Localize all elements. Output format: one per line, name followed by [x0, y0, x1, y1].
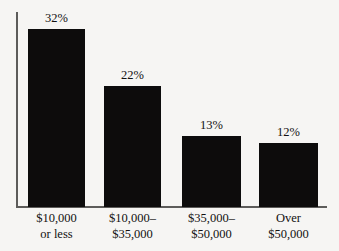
category-label-4-line1: Over: [276, 211, 301, 225]
category-label-3-line1: $35,000–: [188, 211, 235, 225]
category-label-1-line1: $10,000: [36, 211, 77, 225]
bar-2: [104, 86, 161, 207]
bar-value-4: 12%: [259, 125, 318, 140]
category-label-2-line2: $35,000: [92, 227, 173, 243]
bar-value-1: 32%: [28, 11, 85, 26]
bar-3: [182, 136, 241, 207]
category-label-4-line2: $50,000: [248, 227, 329, 243]
category-label-4: Over $50,000: [248, 211, 329, 242]
category-label-1-line2: or less: [16, 227, 97, 243]
bar-value-2: 22%: [104, 68, 161, 83]
category-label-3: $35,000– $50,000: [171, 211, 252, 242]
plot-area: 32% 22% 13% 12% $10,000 or less $10,000–…: [0, 0, 339, 251]
category-label-2: $10,000– $35,000: [92, 211, 173, 242]
category-label-2-line1: $10,000–: [109, 211, 156, 225]
category-label-1: $10,000 or less: [16, 211, 97, 242]
y-axis-line: [16, 12, 18, 208]
bar-1: [28, 29, 85, 207]
bar-chart: 32% 22% 13% 12% $10,000 or less $10,000–…: [0, 0, 339, 251]
bar-4: [259, 143, 318, 207]
bar-value-3: 13%: [182, 118, 241, 133]
category-label-3-line2: $50,000: [171, 227, 252, 243]
